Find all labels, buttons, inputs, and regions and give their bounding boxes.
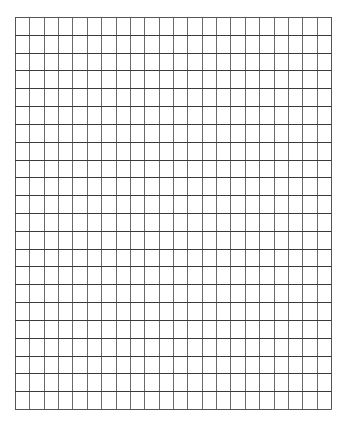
grid-lines <box>15 17 332 410</box>
graph-paper-grid <box>15 17 332 410</box>
